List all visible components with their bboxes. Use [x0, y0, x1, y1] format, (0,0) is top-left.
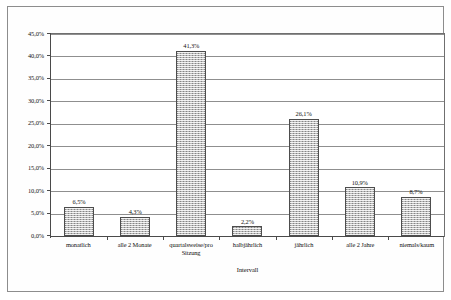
y-axis-tick: [47, 213, 51, 214]
y-axis-tick: [47, 78, 51, 79]
x-axis-label-5: alle 2 Jahre: [332, 241, 388, 265]
bar-slot: 26,1%: [276, 34, 332, 236]
bar-slot: 10,9%: [332, 34, 388, 236]
x-axis-label-1: alle 2 Monate: [106, 241, 162, 265]
bar-value-label: 8,7%: [409, 188, 422, 195]
gridline: [51, 236, 444, 237]
bar-value-label: 6,5%: [73, 198, 86, 205]
y-axis-tick-label: 15,0%: [10, 164, 44, 171]
y-axis-tick: [47, 190, 51, 191]
y-axis-tick-label: 20,0%: [10, 142, 44, 149]
x-axis-labels: monatlichalle 2 Monatequartalsweise/pro …: [50, 241, 445, 265]
y-axis-tick-label: 25,0%: [10, 119, 44, 126]
bar[interactable]: [176, 51, 206, 236]
x-axis-label-2: quartalsweise/pro Sitzung: [163, 241, 219, 265]
y-axis-tick: [47, 235, 51, 236]
bar-value-label: 2,2%: [241, 218, 254, 225]
y-axis-tick: [47, 55, 51, 56]
bar[interactable]: [120, 217, 150, 236]
chart-frame: 6,5%4,3%41,3%2,2%26,1%10,9%8,7% 0,0%5,0%…: [7, 6, 444, 292]
x-axis-label-3: halbjährlich: [219, 241, 275, 265]
bar-slot: 2,2%: [219, 34, 275, 236]
x-axis-tick: [332, 236, 333, 240]
y-axis-tick: [47, 33, 51, 34]
x-axis-tick: [219, 236, 220, 240]
bar[interactable]: [232, 226, 262, 236]
y-axis-tick: [47, 145, 51, 146]
y-axis-tick-label: 45,0%: [10, 30, 44, 37]
bar[interactable]: [64, 207, 94, 236]
y-axis: [50, 33, 51, 238]
x-axis-label-4: jährlich: [276, 241, 332, 265]
bar-value-label: 41,3%: [183, 42, 199, 49]
x-axis-tick: [107, 236, 108, 240]
bar-slot: 6,5%: [51, 34, 107, 236]
x-axis-tick: [276, 236, 277, 240]
y-axis-tick: [47, 168, 51, 169]
x-axis-tick: [163, 236, 164, 240]
y-axis-tick: [47, 100, 51, 101]
bar-value-label: 26,1%: [296, 110, 312, 117]
bar-slot: 4,3%: [107, 34, 163, 236]
bar[interactable]: [345, 187, 375, 236]
x-axis-label-0: monatlich: [50, 241, 106, 265]
y-axis-tick-label: 5,0%: [10, 209, 44, 216]
bar[interactable]: [289, 119, 319, 236]
y-axis-tick-label: 35,0%: [10, 74, 44, 81]
x-axis-label-6: niemals/kaum: [389, 241, 445, 265]
y-axis-tick-label: 40,0%: [10, 52, 44, 59]
x-axis-tick: [388, 236, 389, 240]
bar-value-label: 4,3%: [129, 208, 142, 215]
x-axis-title: Intervall: [50, 266, 445, 273]
y-axis-tick-label: 10,0%: [10, 187, 44, 194]
bar-slot: 8,7%: [388, 34, 444, 236]
y-axis-tick-label: 30,0%: [10, 97, 44, 104]
plot-area: 6,5%4,3%41,3%2,2%26,1%10,9%8,7%: [50, 33, 445, 237]
bar[interactable]: [401, 197, 431, 236]
y-axis-tick: [47, 123, 51, 124]
bar-value-label: 10,9%: [352, 179, 368, 186]
bar-slot: 41,3%: [163, 34, 219, 236]
y-axis-tick-label: 0,0%: [10, 232, 44, 239]
